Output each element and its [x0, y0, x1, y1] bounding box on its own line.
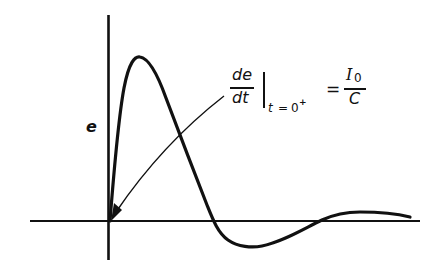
evaluation-subscript-val: 0 [291, 102, 299, 114]
evaluation-bar [263, 72, 265, 108]
response-curve [110, 57, 410, 247]
rhs-numerator-symbol: I [346, 67, 352, 83]
transient-response-figure: e de dt t = 0 + = I 0 C [0, 0, 435, 272]
evaluation-subscript-sup: + [299, 98, 307, 107]
evaluation-subscript-var: t [268, 102, 273, 114]
derivative-numerator: de [232, 67, 252, 83]
y-axis-label: e [86, 119, 97, 135]
plot-canvas [0, 0, 435, 272]
equals-sign: = [326, 81, 340, 98]
annotation-arrow-line [116, 96, 224, 212]
derivative-denominator: dt [232, 90, 248, 106]
rhs-denominator: C [349, 91, 360, 107]
evaluation-subscript-eq: = [278, 102, 288, 114]
rhs-numerator-subscript: 0 [354, 72, 362, 84]
